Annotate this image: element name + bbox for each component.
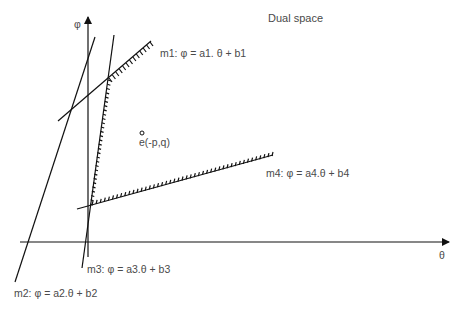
- hatch-tick: [119, 69, 122, 73]
- line-m3: [82, 35, 114, 268]
- hatch-tick: [143, 48, 146, 52]
- hatch-tick: [133, 57, 136, 61]
- point-e: [140, 131, 144, 135]
- hatch-tick: [140, 51, 143, 55]
- line-m1: [58, 41, 151, 121]
- theta-axis-label: θ: [439, 250, 445, 261]
- hatch-tick: [136, 54, 139, 58]
- diagram-title: Dual space: [268, 13, 323, 24]
- label-m2: m2: φ = a2.θ + b2: [14, 288, 97, 299]
- hatch-tick: [147, 45, 150, 49]
- hatch-tick: [116, 72, 119, 76]
- hatch-tick: [126, 63, 129, 67]
- hatch-tick: [106, 97, 109, 98]
- hatch-tick: [123, 66, 126, 70]
- label-m3: m3: φ = a3.θ + b3: [87, 264, 170, 275]
- label-m1: m1: φ = a1. θ + b1: [160, 48, 246, 59]
- hatch-tick: [107, 84, 110, 85]
- hatch-tick: [150, 42, 153, 46]
- point-e-label: e(-p,q): [139, 137, 170, 148]
- label-m4: m4: φ = a4.θ + b4: [266, 168, 349, 179]
- hatch-tick: [107, 89, 110, 90]
- hatch-tick: [112, 75, 115, 79]
- hatch-tick: [106, 93, 109, 94]
- hatch-tick: [130, 60, 133, 64]
- line-m2: [15, 37, 95, 282]
- phi-axis-label: φ: [74, 19, 81, 30]
